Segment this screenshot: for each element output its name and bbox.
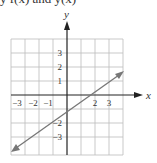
line-arrow-start-icon	[11, 144, 20, 152]
y-tick: 3	[58, 48, 63, 58]
y-tick: 2	[58, 62, 63, 72]
y-axis-arrow-icon	[64, 21, 70, 30]
y-tick: 1	[58, 76, 63, 86]
x-tick: −3	[12, 98, 22, 108]
x-axis-arrow-icon	[134, 92, 143, 98]
x-tick: −2	[28, 98, 38, 108]
y-axis-label: y	[63, 8, 69, 20]
x-tick: 3	[107, 98, 112, 108]
axes	[11, 28, 136, 155]
x-axis-label: x	[145, 89, 151, 101]
line-graph: y x −3 −2 −1 2 3 3 2 1 −2 −3	[0, 0, 157, 163]
x-tick: 2	[93, 98, 98, 108]
x-tick: −1	[43, 98, 53, 108]
y-tick: −3	[52, 132, 62, 142]
